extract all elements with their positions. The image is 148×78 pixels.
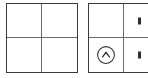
left-cell-r1c1[interactable] bbox=[7, 4, 42, 38]
left-grid-panel bbox=[6, 3, 78, 73]
left-cell-r1c2[interactable] bbox=[42, 4, 77, 38]
right-cell-r1c1[interactable] bbox=[89, 4, 124, 38]
left-cell-r2c2[interactable] bbox=[42, 38, 77, 72]
right-cell-r1c2[interactable] bbox=[124, 4, 148, 38]
screenshot-canvas bbox=[0, 0, 148, 78]
right-cell-r2c1[interactable] bbox=[89, 38, 124, 72]
clipped-mark-icon-bottom bbox=[138, 52, 141, 59]
clipped-mark-icon-top bbox=[138, 17, 141, 24]
left-cell-r2c1[interactable] bbox=[7, 38, 42, 72]
circle-chevron-up-icon[interactable] bbox=[97, 46, 116, 65]
right-grid-panel bbox=[88, 3, 148, 73]
right-cell-r2c2[interactable] bbox=[124, 38, 148, 72]
